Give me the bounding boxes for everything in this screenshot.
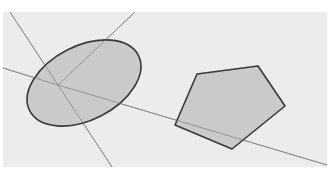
shapes-group[interactable] bbox=[13, 22, 285, 149]
circle-shape[interactable] bbox=[13, 22, 155, 143]
modeling-viewport[interactable]: 3D modeling viewport bbox=[3, 12, 327, 167]
scene-canvas[interactable] bbox=[3, 12, 327, 167]
